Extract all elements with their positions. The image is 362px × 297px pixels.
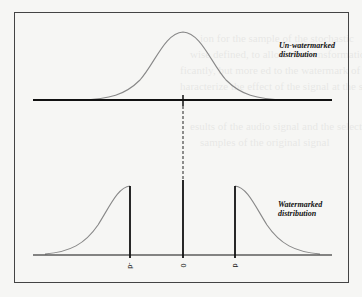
unwatermarked-label: Un-watermarked distribution [279,41,335,59]
watermarked-label-line1: Watermarked [278,200,322,209]
tick-label-zero: 0 [180,260,187,272]
watermarked-left-lobe [45,186,130,254]
watermarked-label-line2: distribution [278,209,322,218]
figure-page: ion for the sample of the stochastic wis… [0,0,362,297]
unwatermarked-label-line2: distribution [279,50,335,59]
unwatermarked-label-line1: Un-watermarked [279,41,335,50]
tick-label-minus-d: -d [127,260,134,272]
unwatermarked-gaussian-curve [80,32,286,100]
watermarked-label: Watermarked distribution [278,200,322,218]
watermarked-right-lobe [235,186,320,254]
tick-label-d: d [232,260,239,272]
